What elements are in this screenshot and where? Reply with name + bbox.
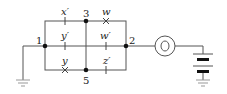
- switch-label-w: w: [102, 6, 111, 17]
- switch-label-z-prime: z′: [102, 55, 111, 66]
- node-label-5: 5: [83, 75, 89, 86]
- node-3: [84, 19, 89, 24]
- ground-icon-left: [16, 80, 30, 86]
- node-label-3: 3: [83, 8, 89, 19]
- lamp-icon: [155, 36, 175, 56]
- node-1: [43, 44, 48, 49]
- ground-icon-right: [196, 80, 210, 86]
- switch-label-x-prime: x′: [61, 6, 70, 17]
- node-label-1: 1: [36, 35, 42, 46]
- ground-wire: [23, 46, 45, 80]
- switch-label-y: y: [61, 55, 68, 66]
- switch-label-w-prime: w′: [100, 30, 112, 41]
- circuit-diagram: 1 2 3 5 x′ w y′ w′ y z′: [0, 0, 227, 94]
- switch-label-y-prime: y′: [60, 30, 70, 41]
- battery-icon: [193, 54, 213, 80]
- node-5: [84, 68, 89, 73]
- node-label-2: 2: [129, 35, 135, 46]
- node-2: [124, 44, 129, 49]
